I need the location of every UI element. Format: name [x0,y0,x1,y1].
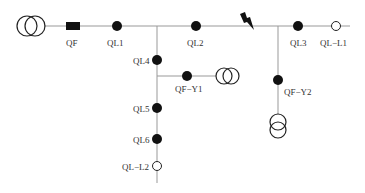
qf-label: QF [66,38,78,48]
ql2-switch-icon[interactable] [191,21,201,31]
ql6-label: QL6 [133,135,150,145]
ql-l1-open-switch-icon[interactable] [332,22,341,31]
ql1-switch-icon[interactable] [112,21,122,31]
qf-y1-label: QF−Y1 [175,84,203,94]
qf-y2-label: QF−Y2 [284,87,312,97]
y2-transformer-icon [270,114,286,138]
ql5-switch-icon[interactable] [152,103,162,113]
ql6-switch-icon[interactable] [152,134,162,144]
qf-breaker-icon[interactable] [66,22,80,30]
feeder-lines [44,26,350,183]
ql1-label: QL1 [107,38,124,48]
source-transformer-icon [17,16,45,36]
ql-l2-label: QL−L2 [122,162,149,172]
qf-y2-switch-icon[interactable] [273,75,283,85]
qf-y1-switch-icon[interactable] [182,71,192,81]
ql5-label: QL5 [133,104,150,114]
fault-lightning-icon [240,12,254,30]
ql-l2-open-switch-icon[interactable] [153,162,162,171]
ql4-switch-icon[interactable] [152,55,162,65]
ql2-label: QL2 [187,38,204,48]
ql4-label: QL4 [133,56,150,66]
ql-l1-label: QL−L1 [320,38,347,48]
y1-transformer-icon [216,68,239,84]
ql3-label: QL3 [290,38,307,48]
ql3-switch-icon[interactable] [293,21,303,31]
